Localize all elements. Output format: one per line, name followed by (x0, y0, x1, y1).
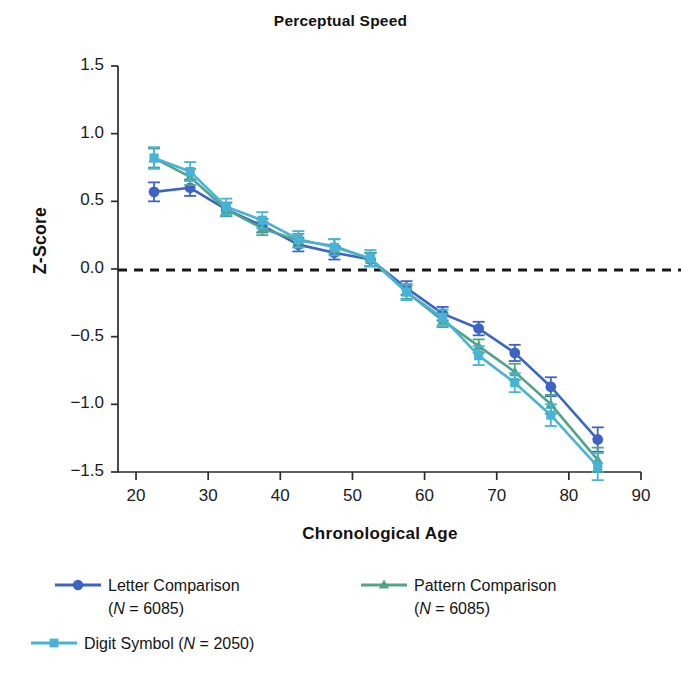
legend-item-letter-comparison: Letter Comparison(N = 6085) (54, 574, 240, 620)
series-letter-comparison (148, 180, 604, 452)
legend-label-letter-comparison: Letter Comparison(N = 6085) (108, 574, 240, 620)
y-tick-1: 1.0 (42, 123, 104, 143)
legend-label-digit-symbol: Digit Symbol (N = 2050) (84, 632, 254, 655)
legend-item-digit-symbol: Digit Symbol (N = 2050) (30, 632, 254, 655)
y-tick-6: −1.5 (42, 461, 104, 481)
chart-figure: Perceptual Speed Z-Score Chronological A… (0, 0, 681, 680)
y-tick-3: 0.0 (42, 258, 104, 278)
legend-swatch-pattern-comparison (360, 575, 408, 595)
legend-swatch-letter-comparison (54, 575, 102, 595)
x-tick-0: 20 (113, 486, 159, 506)
x-tick-3: 50 (329, 486, 375, 506)
x-tick-6: 80 (546, 486, 592, 506)
legend-swatch-digit-symbol (30, 633, 78, 653)
legend-label-pattern-comparison: Pattern Comparison(N = 6085) (414, 574, 556, 620)
y-tick-0: 1.5 (42, 55, 104, 75)
y-tick-5: −1.0 (42, 393, 104, 413)
x-tick-2: 40 (257, 486, 303, 506)
x-tick-5: 70 (474, 486, 520, 506)
chart-legend: Letter Comparison(N = 6085) Pattern Comp… (0, 570, 681, 675)
x-tick-4: 60 (402, 486, 448, 506)
y-tick-4: −0.5 (42, 326, 104, 346)
series-digit-symbol (148, 147, 604, 480)
x-tick-7: 90 (618, 486, 664, 506)
legend-item-pattern-comparison: Pattern Comparison(N = 6085) (360, 574, 556, 620)
y-tick-2: 0.5 (42, 190, 104, 210)
x-tick-1: 30 (185, 486, 231, 506)
